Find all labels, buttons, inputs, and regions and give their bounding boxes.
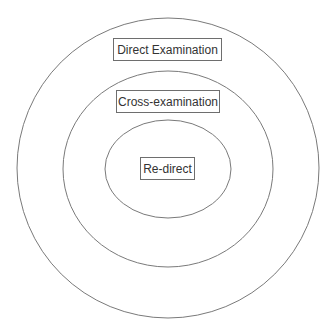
label-re-direct: Re-direct <box>140 157 195 180</box>
label-direct-examination: Direct Examination <box>113 38 222 61</box>
label-cross-examination: Cross-examination <box>116 90 220 113</box>
